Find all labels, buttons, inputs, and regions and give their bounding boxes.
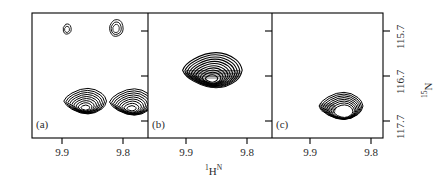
y-axis-title-main: N [422,83,434,91]
x-axis-title-sup: N [217,163,222,172]
contour-peak-c-main [319,92,363,119]
x-axis-title-main: H [209,165,217,177]
contour-peak-a-strong-left [64,88,107,114]
y-axis-title-presup: 15 [420,91,429,99]
x-axis-title: 1HN [205,163,222,177]
ytick-label-115-7: 115.7 [394,25,406,49]
y-axis-ticks-inner [141,31,272,121]
panel-b-contours [183,53,243,88]
ytick-label-117-7: 117.7 [394,115,406,139]
nmr-contour-figure: (a) (b) (c) 9.9 9.8 9.9 9.8 9.9 9.8 115.… [0,0,439,183]
xtick-label-c-2: 9.8 [356,146,386,158]
panel-a-contours [63,20,154,116]
ytick-label-116-7: 116.7 [394,70,406,94]
panel-label-a: (a) [36,118,48,130]
panel-label-c: (c) [276,118,288,130]
xtick-label-a-1: 9.9 [47,146,77,158]
contour-peak-a-strong-right [110,89,154,115]
contour-peak-b-main [183,53,243,88]
y-axis-title: 15N [420,83,434,98]
y-axis-ticks-right [383,31,390,121]
contour-striations-c [319,104,337,112]
x-axis-ticks [62,138,371,144]
panel-c-contours [319,92,363,119]
xtick-label-a-2: 9.8 [108,146,138,158]
xtick-label-b-2: 9.8 [232,146,262,158]
contour-peak-a-weak-right [110,20,124,37]
plot-frame [32,13,383,138]
xtick-label-b-1: 9.9 [171,146,201,158]
contour-peak-a-weak-left [63,24,71,34]
panel-label-b: (b) [152,118,165,130]
xtick-label-c-1: 9.9 [295,146,325,158]
